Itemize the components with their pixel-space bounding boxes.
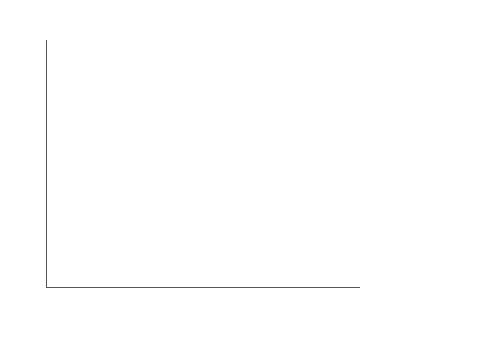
y-axis bbox=[46, 40, 47, 287]
x-axis bbox=[46, 287, 360, 288]
